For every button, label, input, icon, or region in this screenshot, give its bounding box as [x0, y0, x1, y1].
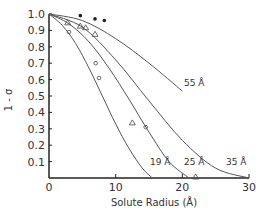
curve-55A — [49, 14, 182, 91]
filled-circle-point — [103, 19, 107, 23]
curve-19A — [49, 14, 152, 178]
x-tick-label: 10 — [109, 181, 123, 194]
curve-label: 25 Å — [184, 156, 205, 167]
y-axis-title: 1 - σ — [3, 88, 14, 111]
y-tick-label: 0.1 — [28, 156, 46, 169]
open-circle-point — [97, 76, 101, 80]
y-tick-label: 0.5 — [28, 90, 46, 103]
x-tick-label: 20 — [175, 181, 189, 194]
curve-25A — [49, 14, 189, 178]
x-tick-label: 0 — [46, 181, 53, 194]
filled-circle-point — [93, 17, 97, 21]
curve-label: 55 Å — [184, 77, 205, 88]
triangle-point — [92, 31, 98, 36]
y-tick-label: 0.6 — [28, 74, 46, 87]
curve-35A — [49, 14, 249, 178]
x-tick-label: 30 — [242, 181, 256, 194]
y-tick-label: 0.8 — [28, 41, 46, 54]
y-tick-label: 0.7 — [28, 57, 46, 70]
y-tick-label: 1.0 — [28, 8, 46, 21]
y-tick-label: 0.2 — [28, 139, 46, 152]
curve-label: 35 Å — [226, 156, 247, 167]
x-axis-title: Solute Radius (Å) — [111, 196, 197, 208]
y-tick-label: 0.4 — [28, 106, 46, 119]
open-circle-point — [94, 61, 98, 65]
chart: 01020300.10.20.30.40.50.60.70.80.91.0Sol… — [0, 0, 265, 214]
curve-label: 19 Å — [150, 156, 171, 167]
filled-circle-point — [79, 14, 83, 18]
y-tick-label: 0.3 — [28, 123, 46, 136]
triangle-point — [129, 120, 135, 125]
y-tick-label: 0.9 — [28, 24, 46, 37]
